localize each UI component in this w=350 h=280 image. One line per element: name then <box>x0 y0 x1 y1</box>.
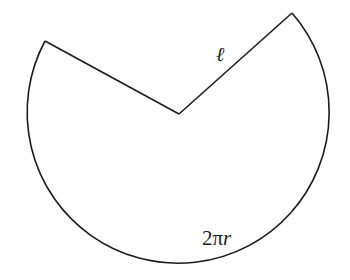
radius-line-left <box>45 41 179 114</box>
cone-net-diagram <box>0 0 350 280</box>
sector-arc <box>27 13 329 263</box>
arc-length-coefficient: 2π <box>202 226 223 250</box>
radius-line-right <box>179 13 292 114</box>
arc-length-variable: r <box>223 226 231 250</box>
slant-height-label: ℓ <box>216 44 224 64</box>
arc-length-label: 2πr <box>202 228 231 249</box>
